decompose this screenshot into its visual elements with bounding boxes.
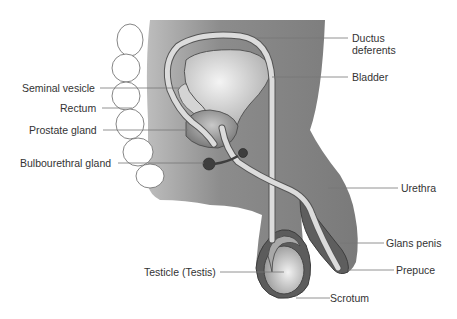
label-prepuce: Prepuce [396,264,435,276]
label-ductus-line1: Ductus [352,32,396,44]
label-testicle: Testicle (Testis) [144,266,216,278]
label-ductus-deferens: Ductus deferents [352,32,396,56]
label-rectum: Rectum [60,102,96,114]
label-bulbourethral-gland: Bulbourethral gland [20,157,111,169]
label-prostate-gland: Prostate gland [29,124,97,136]
label-glans-penis: Glans penis [386,237,441,249]
label-scrotum: Scrotum [330,292,369,304]
label-bladder: Bladder [352,71,388,83]
label-seminal-vesicle: Seminal vesicle [22,82,95,94]
label-ductus-line2: deferents [352,44,396,56]
label-urethra: Urethra [401,182,436,194]
